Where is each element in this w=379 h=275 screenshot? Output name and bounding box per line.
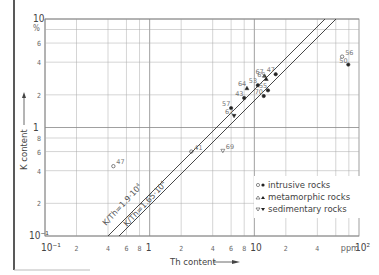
y-tick-label: 8 [37, 135, 41, 143]
legend: intrusive rocks metamorphic rocks sedime… [254, 176, 364, 218]
x-tick-label: 1 [146, 242, 152, 253]
x-tick-label: 10⁻¹ [41, 242, 61, 253]
x-axis-label-group: Th content [169, 257, 240, 267]
x-tick-label: 2 [284, 245, 288, 253]
y-tick-label: 2 [37, 200, 41, 208]
legend-intrusive: intrusive rocks [268, 180, 331, 190]
filled-circle-icon [261, 183, 264, 186]
x-tick-label: 10 [250, 242, 262, 253]
y-axis-label: K content [19, 129, 29, 170]
point-label: 69 [226, 143, 234, 151]
y-tick-label: 10⁻¹ [29, 230, 49, 241]
x-unit-label: ppm [341, 243, 359, 253]
x-tick-label: 2 [75, 245, 79, 253]
y-tick-label: 10 [33, 13, 45, 24]
legend-sedimentary: sedimentary rocks [268, 204, 347, 214]
y-unit-label: % [33, 24, 40, 33]
x-tick-label: 2 [179, 245, 183, 253]
y-axis-label-group: K content [19, 92, 29, 170]
point-label: 56 [345, 49, 353, 57]
point-label: 50 [339, 57, 347, 65]
point-label: 64 [238, 80, 246, 88]
x-tick-label: 6 [229, 245, 233, 253]
point-label: 47 [116, 158, 124, 166]
data-point [221, 149, 225, 153]
x-tick-label: 4 [315, 245, 319, 253]
point-label: 43 [235, 90, 243, 98]
y-tick-label: 1 [33, 122, 39, 133]
point-label: 53 [249, 77, 257, 85]
arrow-right-icon [232, 260, 240, 264]
x-axis-label: Th content [169, 257, 216, 267]
x-tick-label: 4 [211, 245, 215, 253]
y-tick-label: 6 [37, 149, 41, 157]
y-tick-label: 6 [37, 40, 41, 48]
point-label: 41 [194, 144, 202, 152]
y-tick-label: 4 [37, 59, 41, 67]
x-tick-label: 8 [138, 245, 142, 253]
arrow-up-icon [22, 92, 26, 98]
data-point [112, 164, 115, 167]
legend-metamorphic: metamorphic rocks [268, 192, 351, 202]
point-label: 47 [267, 66, 275, 74]
y-tick-label: 2 [37, 92, 41, 100]
point-label: 70 [255, 88, 263, 96]
x-tick-label: 8 [242, 245, 246, 253]
k-th-scatter-chart: 565047676564535570435762694147 10⁻¹24681… [0, 0, 379, 275]
x-tick-label: 6 [124, 245, 128, 253]
point-label: 65 [257, 71, 265, 79]
y-tick-label: 4 [37, 168, 41, 176]
x-tick-label: 4 [106, 245, 110, 253]
point-label: 62 [225, 108, 233, 116]
